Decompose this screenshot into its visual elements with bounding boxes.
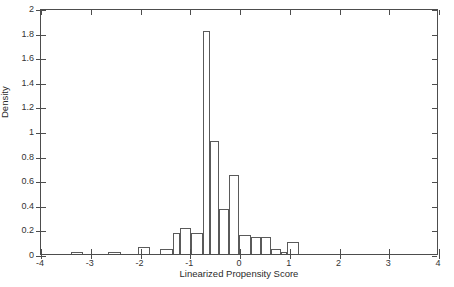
- x-tick-mark-inner: [290, 249, 291, 254]
- x-tick-mark-inner: [141, 249, 142, 254]
- x-tick-label: -4: [36, 258, 44, 268]
- x-tick-mark-inner: [439, 249, 440, 254]
- y-tick-mark-inner: [41, 182, 46, 183]
- x-tick-mark-inner: [190, 249, 191, 254]
- y-tick-label: 1: [4, 127, 34, 137]
- histogram-bar: [210, 141, 218, 254]
- y-tick-mark-right: [432, 59, 437, 60]
- x-tick-mark-top: [41, 10, 42, 15]
- y-tick-mark-right: [432, 256, 437, 257]
- y-tick-label: 1.2: [4, 102, 34, 112]
- histogram-bar: [160, 249, 172, 254]
- y-tick-label: 1.6: [4, 53, 34, 63]
- y-tick-mark-inner: [41, 207, 46, 208]
- y-tick-mark-right: [432, 158, 437, 159]
- histogram-bar: [261, 237, 271, 254]
- x-tick-mark-top: [91, 10, 92, 15]
- x-tick-mark-top: [439, 10, 440, 15]
- x-tick-label: 3: [386, 258, 391, 268]
- x-tick-label: -2: [135, 258, 143, 268]
- y-tick-mark-right: [432, 35, 437, 36]
- x-tick-label: -3: [86, 258, 94, 268]
- x-tick-mark-inner: [389, 249, 390, 254]
- y-tick-mark-inner: [41, 84, 46, 85]
- y-tick-mark-right: [432, 133, 437, 134]
- x-tick-mark-top: [240, 10, 241, 15]
- y-tick-mark-right: [432, 182, 437, 183]
- x-tick-label: 4: [435, 258, 440, 268]
- x-tick-mark-top: [141, 10, 142, 15]
- histogram-figure: Density 00.20.40.60.811.21.41.61.82 -4-3…: [0, 0, 454, 287]
- y-tick-label: 0: [4, 250, 34, 260]
- histogram-bar: [229, 175, 239, 254]
- x-tick-label: 2: [336, 258, 341, 268]
- y-tick-mark-inner: [41, 35, 46, 36]
- histogram-bar: [219, 209, 229, 255]
- y-tick-label: 0.8: [4, 152, 34, 162]
- x-tick-mark-top: [190, 10, 191, 15]
- y-tick-mark-right: [432, 231, 437, 232]
- x-tick-mark-inner: [91, 249, 92, 254]
- x-tick-label: -1: [185, 258, 193, 268]
- y-tick-label: 1.4: [4, 78, 34, 88]
- x-tick-mark-top: [389, 10, 390, 15]
- x-tick-mark-inner: [340, 249, 341, 254]
- y-tick-mark-right: [432, 84, 437, 85]
- x-tick-label: 1: [286, 258, 291, 268]
- x-axis-title: Linearized Propensity Score: [40, 268, 438, 279]
- histogram-bar: [173, 233, 180, 254]
- y-tick-mark-inner: [41, 231, 46, 232]
- y-tick-label: 0.4: [4, 201, 34, 211]
- x-tick-label: 0: [236, 258, 241, 268]
- histogram-bars: [41, 10, 437, 254]
- histogram-bar: [191, 233, 202, 254]
- y-tick-label: 1.8: [4, 29, 34, 39]
- histogram-bar: [271, 249, 281, 254]
- histogram-bar: [108, 252, 120, 254]
- y-tick-mark-right: [432, 207, 437, 208]
- histogram-bar: [203, 31, 210, 254]
- histogram-bar: [251, 237, 261, 254]
- x-tick-mark-inner: [41, 249, 42, 254]
- y-tick-label: 0.2: [4, 225, 34, 235]
- histogram-bar: [71, 252, 83, 254]
- x-tick-mark-top: [340, 10, 341, 15]
- y-tick-label: 2: [4, 4, 34, 14]
- y-tick-mark-inner: [41, 133, 46, 134]
- x-tick-mark-top: [290, 10, 291, 15]
- x-tick-mark-inner: [240, 249, 241, 254]
- y-tick-mark-right: [432, 108, 437, 109]
- y-tick-mark-right: [432, 10, 437, 11]
- y-tick-mark-inner: [41, 59, 46, 60]
- y-tick-label: 0.6: [4, 176, 34, 186]
- plot-area: [40, 9, 438, 255]
- y-tick-mark-inner: [41, 108, 46, 109]
- y-tick-mark-inner: [41, 158, 46, 159]
